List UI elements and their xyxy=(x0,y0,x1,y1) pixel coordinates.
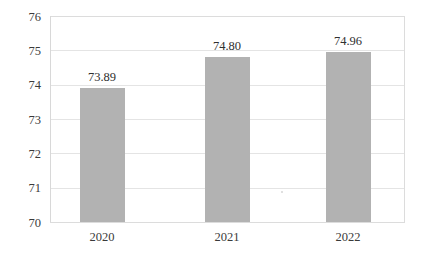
value-label-2020: 73.89 xyxy=(88,70,116,84)
y-tick-label-72: 72 xyxy=(29,147,42,161)
bar-chart: 70717273747576 73.8974.8074.96 202020212… xyxy=(0,0,426,260)
x-tick-label-2022: 2022 xyxy=(336,230,361,244)
scan-artifact-speck xyxy=(281,191,283,193)
value-label-2022: 74.96 xyxy=(334,34,362,48)
x-tick-label-2021: 2021 xyxy=(215,230,240,244)
bar-2022[interactable] xyxy=(326,52,371,222)
y-tick-label-70: 70 xyxy=(29,216,42,230)
y-tick-label-71: 71 xyxy=(29,181,42,195)
x-tick-label-2020: 2020 xyxy=(90,230,115,244)
y-tick-label-75: 75 xyxy=(29,44,42,58)
value-label-2021: 74.80 xyxy=(213,39,241,53)
y-tick-label-76: 76 xyxy=(29,10,42,24)
chart-canvas: 70717273747576 73.8974.8074.96 202020212… xyxy=(0,0,426,260)
y-tick-label-73: 73 xyxy=(29,113,42,127)
y-tick-label-74: 74 xyxy=(29,78,42,92)
bar-2021[interactable] xyxy=(205,57,250,222)
bar-2020[interactable] xyxy=(80,88,125,222)
